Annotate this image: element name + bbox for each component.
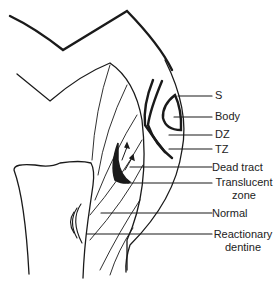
label-body: Body (215, 110, 240, 123)
label-normal: Normal (212, 207, 247, 220)
label-translucent-line2: zone (212, 189, 276, 202)
pulp-outline (14, 162, 94, 279)
label-translucent-line1: Translucent (212, 176, 276, 189)
body-lesion (163, 95, 181, 130)
tooth-outline-top (10, 11, 172, 70)
reactionary-arcs (71, 204, 83, 243)
label-dz: DZ (215, 128, 230, 141)
label-tz: TZ (215, 143, 228, 156)
dead-tract (113, 143, 130, 183)
label-s: S (215, 89, 222, 102)
label-reactionary-line2: dentine (210, 241, 276, 254)
label-reactionary-line1: Reactionary (210, 228, 276, 241)
label-translucent-zone: Translucent zone (212, 176, 276, 202)
label-reactionary-dentine: Reactionary dentine (210, 228, 276, 254)
label-dead-tract: Dead tract (212, 161, 263, 174)
enamel-outline (126, 60, 184, 272)
